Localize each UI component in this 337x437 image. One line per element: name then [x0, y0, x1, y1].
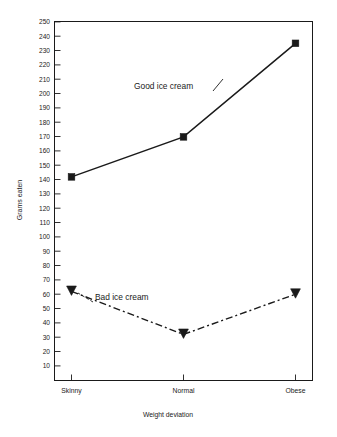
y-tick-label: 60	[43, 291, 51, 298]
y-tick-label: 160	[39, 147, 50, 154]
data-point-good-obese	[292, 40, 299, 47]
annotation-label-bad: Bad ice cream	[95, 292, 149, 302]
y-tick-label: 140	[39, 176, 50, 183]
y-tick-label: 250	[39, 18, 50, 25]
y-tick-label: 210	[39, 76, 50, 83]
x-tick-label-obese: Obese	[285, 387, 305, 394]
x-axis-title: Weight deviation	[143, 411, 193, 419]
y-tick-label: 100	[39, 233, 50, 240]
x-tick-label-skinny: Skinny	[61, 387, 82, 395]
y-tick-label: 40	[43, 319, 51, 326]
y-tick-label: 10	[43, 362, 51, 369]
y-tick-label: 180	[39, 119, 50, 126]
y-tick-label: 20	[43, 348, 51, 355]
y-tick-label: 190	[39, 104, 50, 111]
ice-cream-line-chart: 250 240 230 220 210 200 190 180 170 160 …	[0, 0, 337, 437]
x-tick-label-normal: Normal	[173, 387, 195, 394]
y-tick-label: 200	[39, 90, 50, 97]
data-point-good-skinny	[68, 174, 75, 181]
y-tick-label: 70	[43, 276, 51, 283]
y-tick-label: 240	[39, 33, 50, 40]
y-tick-label: 130	[39, 190, 50, 197]
y-tick-label: 120	[39, 205, 50, 212]
chart-background	[0, 0, 337, 437]
y-tick-label: 230	[39, 47, 50, 54]
annotation-label-good: Good ice cream	[134, 81, 193, 91]
y-tick-label: 220	[39, 61, 50, 68]
y-tick-label: 90	[43, 248, 51, 255]
y-tick-label: 150	[39, 162, 50, 169]
y-tick-label: 50	[43, 305, 51, 312]
data-point-good-normal	[180, 134, 187, 141]
y-axis-title: Grams eaten	[16, 180, 23, 221]
y-tick-label: 110	[39, 219, 50, 226]
y-tick-label: 80	[43, 262, 51, 269]
y-tick-label: 170	[39, 133, 50, 140]
y-tick-label: 30	[43, 334, 51, 341]
